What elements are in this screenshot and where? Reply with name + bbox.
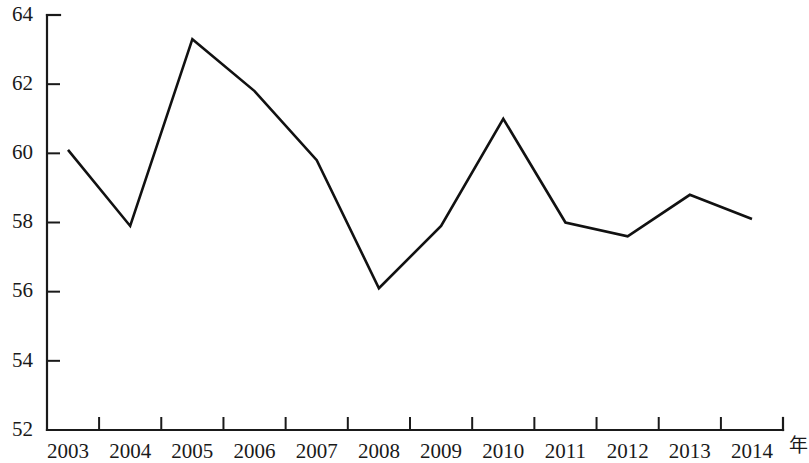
y-tick-label: 56 bbox=[12, 278, 33, 302]
y-tick-label: 54 bbox=[12, 348, 34, 372]
x-tick-label: 2009 bbox=[420, 439, 462, 463]
x-tick-label: 2005 bbox=[171, 439, 213, 463]
y-tick-label-group: 64626058565452 bbox=[12, 2, 34, 441]
y-tick-label: 64 bbox=[12, 2, 34, 26]
x-tick-label: 2006 bbox=[234, 439, 276, 463]
x-tick-label: 2010 bbox=[482, 439, 524, 463]
x-axis-unit-label: 年 bbox=[789, 435, 808, 456]
x-tick-label: 2014 bbox=[731, 439, 774, 463]
y-tick-label: 52 bbox=[12, 417, 33, 441]
x-tick-label-group: 2003200420052006200720082009201020112012… bbox=[47, 439, 774, 463]
y-tick-group bbox=[47, 15, 60, 430]
y-tick-label: 62 bbox=[12, 71, 33, 95]
x-tick-label: 2013 bbox=[669, 439, 711, 463]
x-tick-label: 2003 bbox=[47, 439, 89, 463]
x-tick-label: 2007 bbox=[296, 439, 338, 463]
y-tick-label: 60 bbox=[12, 140, 33, 164]
chart-canvas: 64626058565452 2003200420052006200720082… bbox=[0, 0, 809, 463]
data-series-line bbox=[68, 39, 752, 288]
x-tick-group bbox=[99, 417, 721, 430]
line-chart: 64626058565452 2003200420052006200720082… bbox=[0, 0, 809, 463]
x-tick-label: 2004 bbox=[109, 439, 152, 463]
x-tick-label: 2011 bbox=[545, 439, 586, 463]
y-tick-label: 58 bbox=[12, 209, 33, 233]
x-tick-label: 2008 bbox=[358, 439, 400, 463]
x-tick-label: 2012 bbox=[607, 439, 649, 463]
